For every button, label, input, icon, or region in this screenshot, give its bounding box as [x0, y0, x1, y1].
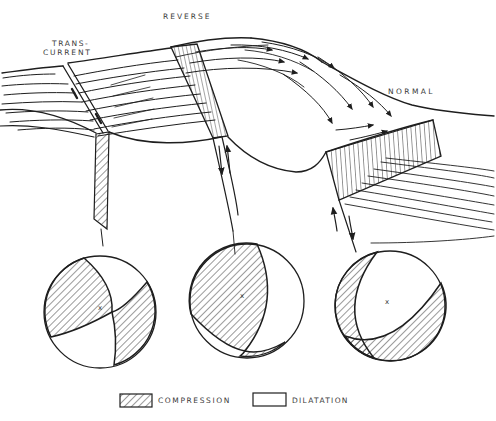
transcurrent-fault-plane-hatched: [94, 132, 109, 229]
normal-slip-arrow-up: [333, 208, 337, 231]
left-surface-streamlines: [2, 74, 94, 130]
compression-region-lower-right: [345, 283, 446, 361]
transcurrent-label-line1: TRANS-: [52, 39, 89, 48]
legend-compression-label: COMPRESSION: [158, 396, 231, 405]
reverse-label: REVERSE: [163, 12, 212, 21]
legend-dilatation-label: DILATATION: [292, 396, 349, 405]
beachball-reverse: [189, 243, 304, 358]
compression-swatch: [120, 394, 152, 407]
normal-fault-underground: [333, 200, 356, 252]
fault-block-diagram-svg: [0, 0, 496, 421]
transcurrent-label-line2: CURRENT: [43, 48, 92, 57]
compression-quadrant-lower-right: [112, 282, 155, 365]
beachball-normal: [335, 251, 446, 361]
compression-quadrant-upper-left: [45, 258, 112, 337]
reverse-fault-underground: [213, 137, 238, 254]
beachball-transcurrent: [44, 256, 156, 368]
fault-types-figure: TRANS- CURRENT REVERSE NORMAL x x x COMP…: [0, 0, 496, 421]
beachball-reverse-center-mark: x: [240, 292, 244, 300]
normal-label: NORMAL: [388, 87, 435, 96]
beachball-normal-center-mark: x: [385, 298, 389, 306]
beachball-transcurrent-center-mark: x: [98, 304, 102, 312]
dilatation-swatch: [253, 393, 286, 406]
